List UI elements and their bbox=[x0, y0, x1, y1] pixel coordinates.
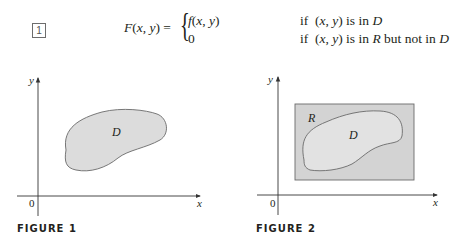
fig1-x-label: x bbox=[197, 197, 202, 209]
fig2-rect-label: R bbox=[308, 111, 315, 126]
fig1-origin-label: 0 bbox=[29, 197, 35, 209]
fig1-y-label: y bbox=[29, 74, 34, 86]
figure-1 bbox=[17, 78, 200, 216]
fig2-x-label: x bbox=[433, 196, 438, 208]
figure-2 bbox=[257, 77, 437, 215]
fig1-region-label: D bbox=[112, 125, 121, 140]
figure-1-caption: FIGURE 1 bbox=[17, 223, 77, 234]
figures-canvas bbox=[0, 0, 454, 247]
fig2-region-label: D bbox=[349, 128, 358, 143]
figure-2-caption: FIGURE 2 bbox=[256, 223, 316, 234]
fig2-y-label: y bbox=[268, 73, 273, 85]
region-d bbox=[65, 109, 166, 170]
fig2-origin-label: 0 bbox=[270, 197, 276, 209]
